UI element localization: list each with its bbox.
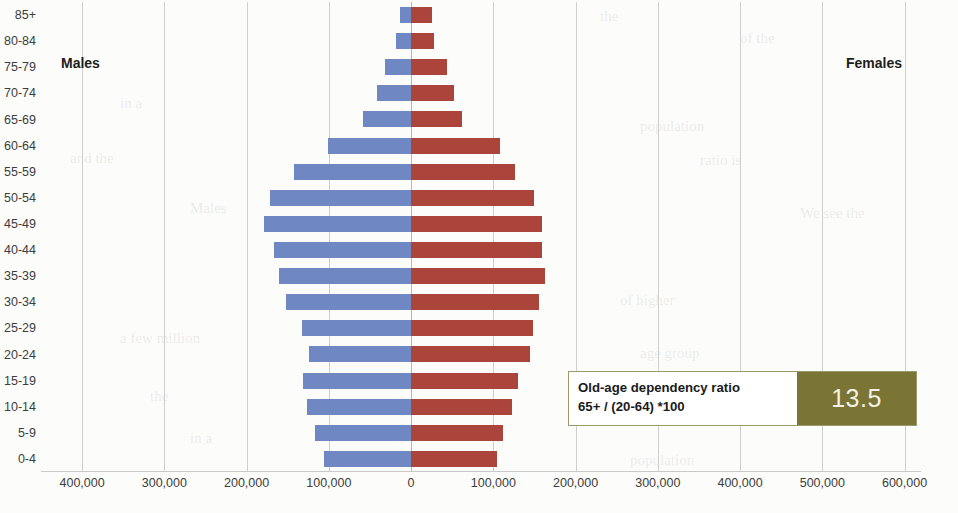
x-axis-tick-label: 500,000 bbox=[800, 476, 845, 490]
series-caption-females: Females bbox=[846, 55, 902, 71]
y-axis-tick-label: 75-79 bbox=[4, 60, 36, 74]
y-axis-tick-label: 35-39 bbox=[4, 269, 36, 283]
x-axis-tick-label: 400,000 bbox=[60, 476, 105, 490]
bar-row bbox=[41, 54, 921, 80]
bar-male bbox=[315, 425, 411, 441]
y-axis-tick-label: 25-29 bbox=[4, 321, 36, 335]
x-axis-tick-label: 0 bbox=[408, 476, 415, 490]
bar-male bbox=[309, 346, 411, 362]
bar-row bbox=[41, 315, 921, 341]
bar-female bbox=[411, 216, 542, 232]
bar-row bbox=[41, 289, 921, 315]
bar-row bbox=[41, 446, 921, 472]
population-pyramid-chart: theof thein apopulationand theratio isMa… bbox=[0, 0, 958, 513]
bar-male bbox=[328, 138, 411, 154]
bar-female bbox=[411, 33, 434, 49]
x-axis-labels: 400,000300,000200,000100,0000100,000200,… bbox=[41, 476, 921, 500]
bar-female bbox=[411, 268, 545, 284]
bar-row bbox=[41, 185, 921, 211]
y-axis-tick-label: 5-9 bbox=[18, 426, 36, 440]
y-axis-tick-label: 20-24 bbox=[4, 348, 36, 362]
y-axis-tick-label: 80-84 bbox=[4, 34, 36, 48]
bar-female bbox=[411, 346, 530, 362]
bar-male bbox=[279, 268, 411, 284]
bar-male bbox=[294, 164, 411, 180]
bar-male bbox=[385, 59, 411, 75]
bar-male bbox=[400, 7, 412, 23]
bar-female bbox=[411, 451, 497, 467]
bar-male bbox=[270, 190, 411, 206]
x-axis-tick-label: 100,000 bbox=[306, 476, 351, 490]
bar-female bbox=[411, 138, 500, 154]
x-axis-tick-label: 300,000 bbox=[635, 476, 680, 490]
y-axis-tick-label: 10-14 bbox=[4, 400, 36, 414]
callout-label: Old-age dependency ratio 65+ / (20-64) *… bbox=[569, 372, 797, 425]
y-axis-tick-label: 55-59 bbox=[4, 165, 36, 179]
bar-female bbox=[411, 294, 538, 310]
callout-label-line2: 65+ / (20-64) *100 bbox=[578, 397, 797, 416]
bar-male bbox=[264, 216, 411, 232]
y-axis-tick-label: 65-69 bbox=[4, 113, 36, 127]
bar-female bbox=[411, 7, 432, 23]
x-axis-tick-label: 200,000 bbox=[224, 476, 269, 490]
bar-row bbox=[41, 211, 921, 237]
bar-row bbox=[41, 237, 921, 263]
bar-row bbox=[41, 341, 921, 367]
x-axis-tick-label: 100,000 bbox=[471, 476, 516, 490]
bar-row bbox=[41, 2, 921, 28]
y-axis-tick-label: 30-34 bbox=[4, 295, 36, 309]
bar-row bbox=[41, 80, 921, 106]
bar-row bbox=[41, 263, 921, 289]
x-axis-tick-label: 300,000 bbox=[142, 476, 187, 490]
y-axis-tick-label: 60-64 bbox=[4, 139, 36, 153]
bar-female bbox=[411, 242, 542, 258]
bar-row bbox=[41, 28, 921, 54]
bar-male bbox=[377, 85, 412, 101]
x-axis-baseline bbox=[41, 471, 921, 472]
bar-female bbox=[411, 85, 454, 101]
bar-row bbox=[41, 106, 921, 132]
bar-female bbox=[411, 164, 515, 180]
y-axis-tick-label: 50-54 bbox=[4, 191, 36, 205]
y-axis-tick-label: 85+ bbox=[15, 8, 36, 22]
bar-female bbox=[411, 425, 503, 441]
y-axis-tick-label: 45-49 bbox=[4, 217, 36, 231]
x-axis-tick-label: 600,000 bbox=[882, 476, 927, 490]
old-age-dependency-ratio-callout: Old-age dependency ratio 65+ / (20-64) *… bbox=[568, 371, 917, 426]
bar-male bbox=[274, 242, 411, 258]
bar-male bbox=[396, 33, 411, 49]
bar-male bbox=[363, 111, 411, 127]
y-axis-tick-label: 0-4 bbox=[18, 452, 36, 466]
bar-male bbox=[303, 373, 411, 389]
bar-male bbox=[324, 451, 411, 467]
bar-row bbox=[41, 133, 921, 159]
x-axis-tick-label: 400,000 bbox=[717, 476, 762, 490]
callout-label-line1: Old-age dependency ratio bbox=[578, 378, 797, 397]
bar-female bbox=[411, 320, 533, 336]
y-axis-tick-label: 70-74 bbox=[4, 86, 36, 100]
bar-female bbox=[411, 111, 462, 127]
bar-male bbox=[302, 320, 411, 336]
callout-value: 13.5 bbox=[797, 372, 916, 425]
bar-male bbox=[286, 294, 411, 310]
bar-female bbox=[411, 59, 447, 75]
y-axis-tick-label: 40-44 bbox=[4, 243, 36, 257]
bar-male bbox=[307, 399, 411, 415]
bar-female bbox=[411, 190, 534, 206]
bar-row bbox=[41, 159, 921, 185]
y-axis-labels: 0-45-910-1415-1920-2425-2930-3435-3940-4… bbox=[0, 2, 38, 472]
bar-female bbox=[411, 373, 518, 389]
series-caption-males: Males bbox=[61, 55, 100, 71]
y-axis-tick-label: 15-19 bbox=[4, 374, 36, 388]
x-axis-tick-label: 200,000 bbox=[553, 476, 598, 490]
bar-female bbox=[411, 399, 512, 415]
